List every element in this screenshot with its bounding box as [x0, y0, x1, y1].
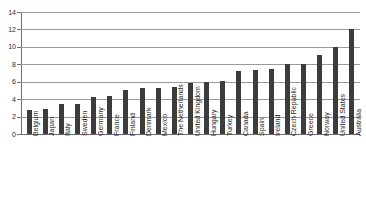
x-axis-category-label: Turkey — [226, 115, 233, 136]
bar — [317, 55, 322, 134]
x-axis-category-label: Ireland — [274, 115, 281, 136]
x-axis-category-label: Italy — [64, 123, 71, 136]
y-axis-tick-label: 6 — [0, 78, 16, 85]
x-axis-category-label: Sweden — [81, 111, 88, 136]
bar — [156, 88, 161, 134]
x-axis-category-label: Mexico — [161, 114, 168, 136]
bar — [269, 69, 274, 134]
y-axis-tick-mark — [17, 117, 21, 118]
y-axis-tick-label: 0 — [0, 131, 16, 138]
bar — [301, 64, 306, 134]
y-axis-tick-labels: 02468101214 — [0, 0, 16, 212]
y-axis-tick-label: 14 — [0, 9, 16, 16]
bar — [333, 47, 338, 134]
x-axis-category-label: Finland — [129, 113, 136, 136]
y-axis-tick-mark — [17, 82, 21, 83]
y-axis-tick-label: 8 — [0, 61, 16, 68]
bar — [91, 97, 96, 134]
x-axis-category-label: Japan — [48, 117, 55, 136]
bar — [349, 29, 354, 134]
bar — [204, 82, 209, 134]
bar — [123, 90, 128, 134]
bar-chart-figure: · · · · · ·· · · · · ·· · · · · · 024681… — [0, 0, 366, 212]
x-axis-category-label: Hungary — [210, 110, 217, 136]
x-axis-category-label: Germany — [97, 107, 104, 136]
y-axis-tick-mark — [17, 47, 21, 48]
bar — [253, 70, 258, 134]
bar — [43, 109, 48, 134]
bar — [75, 104, 80, 135]
x-axis-category-label: Spain — [258, 118, 265, 136]
bar — [236, 71, 241, 134]
x-axis-category-label: Norway — [323, 112, 330, 136]
x-axis-category-label: Canada — [242, 111, 249, 136]
x-axis-category-label: Greece — [307, 113, 314, 136]
bar — [107, 96, 112, 134]
y-axis-tick-label: 12 — [0, 26, 16, 33]
y-axis-tick-label: 2 — [0, 113, 16, 120]
gridline — [21, 64, 360, 65]
x-axis-category-label: Australia — [355, 109, 362, 136]
bar — [140, 88, 145, 134]
y-axis-tick-mark — [17, 99, 21, 100]
x-axis-category-label: United States — [339, 94, 346, 136]
cropped-title-strip: · · · · · ·· · · · · ·· · · · · · — [22, 0, 322, 5]
x-axis-category-label: The Netherlands — [177, 84, 184, 136]
x-axis-category-label: Denmark — [145, 108, 152, 136]
y-axis-tick-label: 10 — [0, 43, 16, 50]
y-axis-tick-mark — [17, 12, 21, 13]
bar — [220, 81, 225, 134]
bar — [27, 110, 32, 134]
gridline — [21, 47, 360, 48]
y-axis-tick-mark — [17, 29, 21, 30]
gridline — [21, 29, 360, 30]
gridline — [21, 12, 360, 13]
y-axis-tick-mark — [17, 64, 21, 65]
x-axis-category-label: Czech Republic — [290, 87, 297, 136]
y-axis-tick-label: 4 — [0, 96, 16, 103]
x-axis-category-label: France — [113, 114, 120, 136]
bar — [188, 83, 193, 134]
y-axis-tick-mark — [17, 134, 21, 135]
x-axis-category-label: United Kingdom — [194, 86, 201, 136]
x-axis-category-labels: BelgiumJapanItalySwedenGermanyFranceFinl… — [21, 136, 360, 212]
x-axis-category-label: Belgium — [32, 111, 39, 136]
